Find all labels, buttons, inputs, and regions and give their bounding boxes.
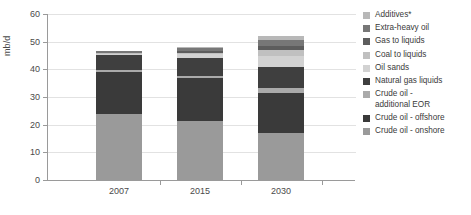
bar-segment[interactable] bbox=[177, 121, 223, 180]
x-tick-label: 2015 bbox=[170, 186, 230, 196]
legend-item[interactable]: Coal to liquids bbox=[363, 50, 471, 61]
x-tick-mark bbox=[322, 181, 323, 185]
y-tick-label: 10 bbox=[30, 147, 40, 157]
legend-label: Gas to liquids bbox=[375, 36, 425, 47]
chart-legend: Additives*Extra-heavy oilGas to liquidsC… bbox=[363, 10, 471, 139]
chart-figure: mb/d 0102030405060 200720152030 Additive… bbox=[0, 0, 471, 215]
legend-label: Extra-heavy oil bbox=[375, 23, 429, 34]
y-axis-title: mb/d bbox=[2, 0, 12, 56]
x-axis-line bbox=[47, 180, 355, 181]
plot-area: 0102030405060 200720152030 bbox=[47, 14, 355, 181]
y-tick-mark bbox=[43, 97, 47, 98]
y-tick-mark bbox=[43, 125, 47, 126]
y-tick-label: 30 bbox=[30, 92, 40, 102]
legend-label: Crude oil - additional EOR bbox=[375, 89, 430, 110]
legend-swatch-icon bbox=[363, 115, 370, 122]
bar-segment[interactable] bbox=[258, 67, 304, 87]
legend-item[interactable]: Crude oil - onshore bbox=[363, 126, 471, 137]
legend-swatch-icon bbox=[363, 65, 370, 72]
bar-segment[interactable] bbox=[258, 56, 304, 67]
stacked-bar[interactable] bbox=[258, 36, 304, 180]
y-tick-mark bbox=[43, 180, 47, 181]
y-tick-label: 50 bbox=[30, 37, 40, 47]
x-tick-label: 2007 bbox=[89, 186, 149, 196]
legend-label: Coal to liquids bbox=[375, 50, 426, 61]
x-tick-mark bbox=[160, 181, 161, 185]
legend-label: Oil sands bbox=[375, 63, 409, 74]
legend-label: Crude oil - onshore bbox=[375, 126, 445, 137]
legend-label: Crude oil - offshore bbox=[375, 113, 444, 124]
legend-swatch-icon bbox=[363, 12, 370, 19]
stacked-bar[interactable] bbox=[96, 51, 142, 180]
bar-group[interactable] bbox=[177, 47, 223, 180]
legend-label: Natural gas liquids bbox=[375, 76, 442, 87]
bar-group[interactable] bbox=[258, 36, 304, 180]
bar-segment[interactable] bbox=[258, 133, 304, 180]
legend-swatch-icon bbox=[363, 78, 370, 85]
legend-swatch-icon bbox=[363, 52, 370, 59]
bar-segment[interactable] bbox=[177, 78, 223, 121]
y-tick-label: 40 bbox=[30, 64, 40, 74]
legend-item[interactable]: Oil sands bbox=[363, 63, 471, 74]
y-tick-mark bbox=[43, 14, 47, 15]
legend-label: Additives* bbox=[375, 10, 411, 21]
bar-segment[interactable] bbox=[177, 58, 223, 76]
x-tick-mark bbox=[241, 181, 242, 185]
plot-inner: 0102030405060 bbox=[47, 14, 355, 181]
legend-item[interactable]: Gas to liquids bbox=[363, 36, 471, 47]
legend-swatch-icon bbox=[363, 38, 370, 45]
bar-group[interactable] bbox=[96, 51, 142, 180]
y-tick-mark bbox=[43, 42, 47, 43]
y-tick-label: 20 bbox=[30, 120, 40, 130]
legend-swatch-icon bbox=[363, 91, 370, 98]
y-tick-label: 0 bbox=[35, 175, 40, 185]
legend-item[interactable]: Additives* bbox=[363, 10, 471, 21]
y-tick-label: 60 bbox=[30, 9, 40, 19]
legend-item[interactable]: Natural gas liquids bbox=[363, 76, 471, 87]
x-tick-label: 2030 bbox=[251, 186, 311, 196]
y-tick-mark bbox=[43, 152, 47, 153]
legend-item[interactable]: Extra-heavy oil bbox=[363, 23, 471, 34]
gridline bbox=[48, 42, 356, 43]
legend-item[interactable]: Crude oil - additional EOR bbox=[363, 89, 471, 110]
gridline bbox=[48, 14, 356, 15]
bar-segment[interactable] bbox=[96, 114, 142, 180]
bar-segment[interactable] bbox=[96, 72, 142, 114]
legend-swatch-icon bbox=[363, 128, 370, 135]
legend-item[interactable]: Crude oil - offshore bbox=[363, 113, 471, 124]
bar-segment[interactable] bbox=[258, 93, 304, 133]
stacked-bar[interactable] bbox=[177, 47, 223, 180]
legend-swatch-icon bbox=[363, 25, 370, 32]
bar-segment[interactable] bbox=[96, 55, 142, 70]
y-tick-mark bbox=[43, 69, 47, 70]
